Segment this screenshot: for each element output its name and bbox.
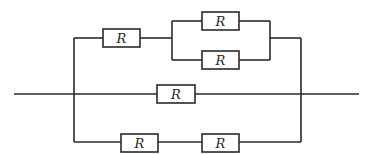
svg-text:R: R (215, 136, 226, 151)
resistor-r2: R (202, 12, 239, 30)
svg-text:R: R (215, 53, 226, 68)
resistor-r3: R (202, 51, 239, 69)
svg-text:R: R (116, 31, 127, 46)
resistor-r4: R (157, 85, 195, 103)
svg-text:R: R (215, 14, 226, 29)
circuit-diagram: R R R R R R (0, 0, 368, 154)
resistor-r5: R (121, 134, 158, 152)
svg-text:R: R (170, 87, 181, 102)
svg-text:R: R (134, 136, 145, 151)
resistor-r1: R (103, 29, 140, 47)
resistor-r6: R (202, 134, 239, 152)
